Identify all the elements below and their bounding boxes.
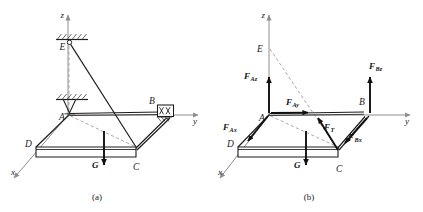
brace-BC-cap-a [166, 118, 170, 119]
axis-y-label-a: y [192, 116, 197, 126]
axis-x-label-b: x [217, 167, 222, 177]
arm-AB-a [70, 112, 161, 114]
point-D-label-b: D [226, 139, 234, 149]
plate-a [36, 147, 136, 157]
point-C-label-a: C [133, 162, 140, 172]
force-FAz-label-b: FAz [243, 71, 258, 82]
figure-root: z y x E [0, 0, 423, 212]
point-E-label-b: E [256, 44, 263, 54]
force-FAx-arrow-b [248, 116, 268, 141]
brace-BC-outer-a [137, 118, 170, 150]
axis-x-label-a: x [10, 167, 15, 177]
axis-y-label-b: y [404, 116, 409, 126]
brace-BC-inner-a [134, 119, 166, 151]
axis-z-label-a: z [60, 10, 65, 20]
point-D-label-a: D [24, 139, 32, 149]
point-E-label-a: E [59, 42, 66, 52]
edge-AD-a [36, 115, 70, 148]
force-G-label-b: G [294, 160, 301, 170]
point-B-label-b: B [359, 97, 365, 107]
force-FT-label-b: FT [323, 122, 335, 133]
plate-b [238, 147, 338, 157]
force-FAx-label-b: FAx [222, 122, 237, 133]
point-B-label-a: B [149, 96, 155, 106]
panel-a-diagram: z y x E [0, 0, 212, 212]
point-C-label-b: C [336, 164, 343, 174]
caption-b: (b) [304, 192, 315, 202]
axis-z-label-b: z [261, 10, 266, 20]
force-FBz-label-b: FBz [368, 61, 383, 72]
force-FAy-label-b: FAy [285, 97, 299, 108]
panel-b-diagram: z y x E A B D C FAz [212, 0, 423, 212]
caption-a: (a) [92, 192, 102, 202]
force-G-label-a: G [92, 160, 99, 170]
